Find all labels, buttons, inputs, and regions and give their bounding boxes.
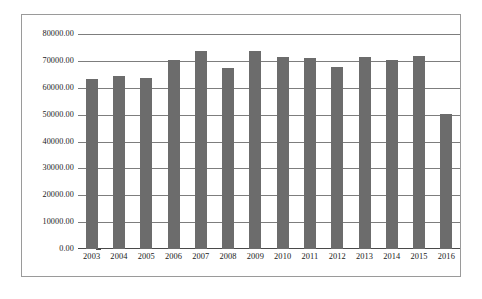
x-tick-label-2004: 2004 [105,252,132,261]
x-axis: 2003200420052006200720082009201020112012… [78,252,460,270]
y-tick-label: 0.00 [59,245,74,253]
y-tick-label: 70000.00 [42,57,74,65]
y-tick-label: 40000.00 [42,137,74,145]
x-tick-label-2003: 2003 [78,252,105,261]
bar-2011 [304,58,316,249]
x-tick-label-2009: 2009 [242,252,269,261]
bar-2012 [331,67,343,249]
bar-series [78,34,460,249]
y-tick-label: 50000.00 [42,111,74,119]
x-tick-label-2014: 2014 [378,252,405,261]
bar-2013 [359,57,371,249]
bar-2016 [440,114,452,249]
plot-area [78,34,460,249]
x-tick-label-2012: 2012 [324,252,351,261]
bar-2005 [140,78,152,249]
bar-2007 [195,51,207,249]
x-tick-label-2010: 2010 [269,252,296,261]
x-tick-label-2007: 2007 [187,252,214,261]
y-tick-label: 20000.00 [42,191,74,199]
bar-2008 [222,68,234,249]
y-tick-label: 30000.00 [42,164,74,172]
x-tick-label-2005: 2005 [133,252,160,261]
chart-figure: 80000.0070000.0060000.0050000.0040000.00… [0,0,482,299]
x-tick-label-2008: 2008 [214,252,241,261]
bar-2003 [86,79,98,249]
x-tick-label-2006: 2006 [160,252,187,261]
y-tick-label: 10000.00 [42,218,74,226]
x-tick-label-2016: 2016 [433,252,460,261]
bar-2009 [249,51,261,249]
bar-2010 [277,57,289,249]
x-tick-label-2015: 2015 [405,252,432,261]
y-axis: 80000.0070000.0060000.0050000.0040000.00… [22,34,74,249]
x-tick-label-2011: 2011 [296,252,323,261]
x-tick-label-2013: 2013 [351,252,378,261]
bar-2004 [113,76,125,249]
bar-2015 [413,56,425,250]
y-tick-label: 60000.00 [42,84,74,92]
y-tick-mark [96,249,101,250]
bar-2006 [168,60,180,249]
bar-2014 [386,60,398,249]
y-tick-label: 80000.00 [42,30,74,38]
